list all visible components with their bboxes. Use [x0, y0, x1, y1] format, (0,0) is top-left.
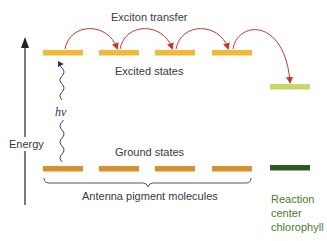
ground-bar-3 [155, 166, 195, 172]
antenna-brace [44, 178, 251, 187]
energy-label: Energy [9, 137, 44, 151]
reaction-center-ground-bar [270, 165, 310, 171]
antenna-pigment-label: Antenna pigment molecules [82, 190, 218, 202]
ground-bar-1 [43, 166, 83, 172]
excited-states-label: Excited states [115, 65, 183, 77]
exciton-transfer-label: Exciton transfer [111, 11, 187, 23]
reaction-center-label: Reaction center chlorophyll [271, 192, 324, 234]
reaction-center-line-2: center [271, 206, 324, 220]
ground-states-label: Ground states [115, 146, 184, 158]
ground-bar-2 [99, 166, 139, 172]
reaction-center-excited-bar [270, 84, 310, 90]
hv-label: hν [55, 105, 66, 120]
excited-state-bars [43, 50, 252, 56]
excited-bar-4 [212, 50, 252, 56]
excited-bar-3 [155, 50, 195, 56]
excited-bar-1 [43, 50, 83, 56]
reaction-center-line-1: Reaction [271, 192, 324, 206]
energy-axis [21, 37, 29, 205]
ground-state-bars [43, 166, 252, 172]
reaction-center-line-3: chlorophyll [271, 220, 324, 234]
excited-bar-2 [99, 50, 139, 56]
ground-bar-4 [212, 166, 252, 172]
